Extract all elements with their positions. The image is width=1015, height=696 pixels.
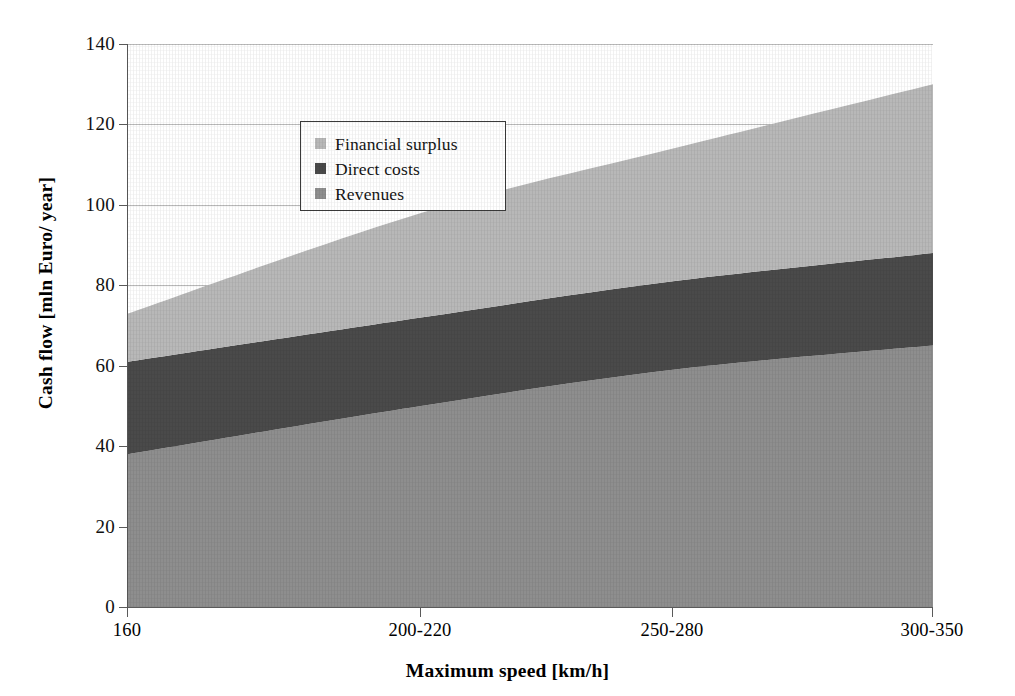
x-tick-mark-3	[932, 608, 933, 617]
y-tick-label-40: 40	[63, 436, 115, 455]
y-tick-label-0: 0	[63, 597, 115, 616]
legend-entry-direct-costs: Direct costs	[315, 156, 505, 181]
y-tick-mark-60	[119, 366, 127, 367]
y-tick-label-140: 140	[63, 34, 115, 53]
y-axis-title: Cash flow [mln Euro/ year]	[35, 33, 57, 553]
x-tick-label-0: 160	[57, 620, 197, 640]
plot-area: Financial surplus Direct costs Revenues	[127, 44, 933, 608]
x-tick-mark-2	[672, 608, 673, 617]
y-tick-mark-40	[119, 446, 127, 447]
y-tick-label-120: 120	[63, 114, 115, 133]
legend-swatch-revenues	[315, 188, 326, 199]
x-tick-label-3: 300-350	[862, 620, 1002, 640]
y-tick-label-60: 60	[63, 356, 115, 375]
legend: Financial surplus Direct costs Revenues	[300, 121, 506, 211]
y-tick-label-20: 20	[63, 517, 115, 536]
legend-entry-revenues: Revenues	[315, 181, 505, 206]
y-tick-mark-0	[119, 607, 127, 608]
legend-entry-financial-surplus: Financial surplus	[315, 131, 505, 156]
legend-swatch-direct-costs	[315, 163, 326, 174]
legend-label-revenues: Revenues	[335, 185, 404, 203]
legend-label-financial-surplus: Financial surplus	[335, 135, 458, 153]
x-axis-title: Maximum speed [km/h]	[0, 660, 1015, 682]
x-tick-mark-1	[420, 608, 421, 617]
chart-figure: Cash flow [mln Euro/ year] 0204060801001…	[0, 0, 1015, 696]
y-tick-mark-140	[119, 44, 127, 45]
x-tick-mark-0	[127, 608, 128, 617]
y-tick-mark-120	[119, 124, 127, 125]
series-layer	[128, 44, 933, 607]
x-tick-label-1: 200-220	[350, 620, 490, 640]
y-tick-mark-80	[119, 285, 127, 286]
y-tick-mark-100	[119, 205, 127, 206]
y-tick-label-100: 100	[63, 195, 115, 214]
x-tick-label-2: 250-280	[602, 620, 742, 640]
y-tick-mark-20	[119, 527, 127, 528]
legend-label-direct-costs: Direct costs	[335, 160, 420, 178]
legend-swatch-financial-surplus	[315, 138, 326, 149]
y-tick-label-80: 80	[63, 275, 115, 294]
